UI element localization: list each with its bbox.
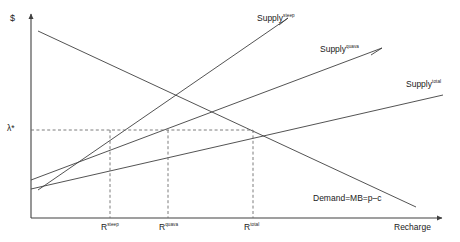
supply-total-label-base: Supply (406, 79, 432, 89)
x-tick-r-medium-sup: quava (165, 222, 178, 227)
supply-total-label: Supplytotal (406, 80, 441, 89)
supply-total-curve (31, 95, 443, 189)
supply-medium-curve (31, 48, 382, 180)
x-tick-r-total-sup: total (250, 222, 259, 227)
x-tick-r-total: Rtotal (244, 223, 259, 232)
supply-demand-plot (0, 0, 460, 242)
supply-steep-label-sup: steep (283, 13, 295, 18)
supply-steep-curve (38, 18, 288, 190)
x-tick-r-steep: Rsteep (101, 223, 119, 232)
supply-medium-label: Supplyquava (320, 45, 359, 54)
diagram-canvas: $ λ* Supplysteep Supplyquava Supplytotal… (0, 0, 460, 242)
demand-label: Demand=MB=p–c (313, 194, 382, 203)
demand-label-text: Demand=MB=p–c (313, 193, 382, 203)
supply-medium-label-sup: quava (346, 44, 359, 49)
x-axis-label: Recharge (394, 223, 431, 232)
supply-total-label-sup: total (432, 79, 441, 84)
demand-curve (38, 31, 416, 207)
supply-steep-label: Supplysteep (257, 14, 295, 23)
lambda-star-tick-label: λ* (7, 124, 15, 133)
supply-steep-label-base: Supply (257, 13, 283, 23)
x-tick-r-steep-sup: steep (107, 222, 119, 227)
x-tick-r-medium: Rquava (159, 223, 178, 232)
supply-medium-label-base: Supply (320, 44, 346, 54)
y-axis-label: $ (10, 14, 15, 23)
